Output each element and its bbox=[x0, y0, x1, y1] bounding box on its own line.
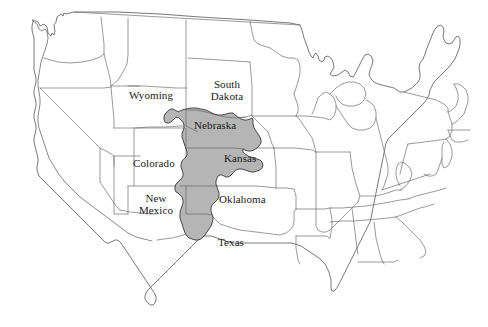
state-label-wyoming: Wyoming bbox=[129, 89, 173, 101]
state-label-new-mexico-line1: New bbox=[128, 192, 184, 204]
state-label-texas-text: Texas bbox=[218, 236, 244, 248]
state-label-kansas: Kansas bbox=[224, 152, 256, 164]
state-label-kansas-text: Kansas bbox=[224, 152, 256, 164]
state-label-nebraska: Nebraska bbox=[194, 119, 236, 131]
state-label-south-dakota-line2: Dakota bbox=[198, 90, 256, 102]
state-label-south-dakota: South Dakota bbox=[198, 78, 256, 102]
state-label-new-mexico-line2: Mexico bbox=[128, 204, 184, 216]
state-label-colorado-text: Colorado bbox=[133, 157, 175, 169]
state-label-nebraska-text: Nebraska bbox=[194, 119, 236, 131]
state-label-oklahoma: Oklahoma bbox=[219, 193, 266, 205]
state-label-texas: Texas bbox=[218, 236, 244, 248]
state-label-wyoming-text: Wyoming bbox=[129, 89, 173, 101]
state-label-south-dakota-line1: South bbox=[198, 78, 256, 90]
state-label-new-mexico: New Mexico bbox=[128, 192, 184, 216]
state-label-colorado: Colorado bbox=[133, 157, 175, 169]
us-aquifer-map-figure: Wyoming South Dakota Nebraska Colorado K… bbox=[0, 0, 488, 327]
state-label-oklahoma-text: Oklahoma bbox=[219, 193, 266, 205]
